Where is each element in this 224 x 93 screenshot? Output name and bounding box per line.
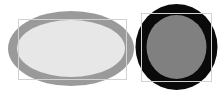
image-canvas xyxy=(0,0,224,93)
circle-object-group xyxy=(136,4,218,90)
circle-inner-fill xyxy=(147,15,207,79)
ellipse-object-group xyxy=(8,11,134,86)
shape-canvas-svg xyxy=(0,0,224,93)
ellipse-inner-fill xyxy=(17,20,125,77)
